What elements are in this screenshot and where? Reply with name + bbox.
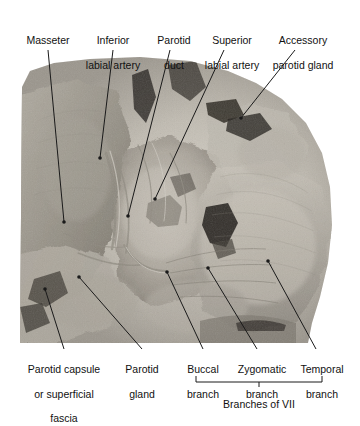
label-accessory-parotid-gland: Accessory parotid gland [249, 22, 357, 83]
photograph-canvas [20, 57, 340, 343]
label-parotid-capsule-line-1: Parotid capsule [4, 363, 124, 375]
label-temporal-branch-line-1: Temporal [288, 363, 356, 375]
label-parotid-gland-line-2: gland [110, 388, 174, 400]
label-branches-of-vii: Branches of VII [199, 386, 319, 423]
label-parotid-capsule-or-superficial-fascia: Parotid capsule or superficial fascia [4, 351, 124, 426]
label-parotid-capsule-line-2: or superficial [4, 388, 124, 400]
label-buccal-branch-line-1: Buccal [173, 363, 233, 375]
label-parotid-capsule-line-3: fascia [4, 412, 124, 424]
label-accessory-parotid-gland-line-1: Accessory [249, 34, 357, 46]
label-accessory-parotid-gland-line-2: parotid gland [249, 59, 357, 71]
label-parotid-gland: Parotid gland [110, 351, 174, 412]
label-parotid-gland-line-1: Parotid [110, 363, 174, 375]
branches-of-vii-text: Branches of VII [199, 398, 319, 410]
dissection-photograph [20, 57, 340, 343]
